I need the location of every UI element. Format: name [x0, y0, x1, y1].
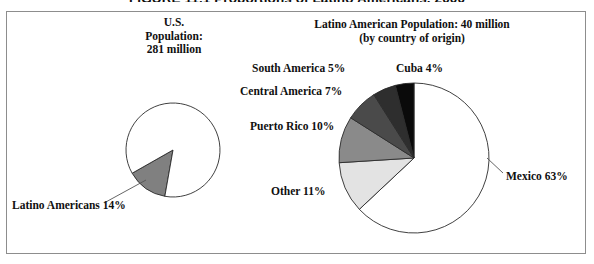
latino-pie-heading-line2: (by country of origin): [272, 32, 552, 46]
slice-label-cuba: Cuba 4%: [396, 62, 443, 75]
us-pie-heading-line1: U.S.: [118, 16, 230, 30]
figure-caption: FIGURE 11.1 Proportions of Latino Americ…: [0, 0, 594, 2]
slice-label-south-america: South America 5%: [252, 62, 345, 75]
slice-label-latino-americans: Latino Americans 14%: [12, 199, 126, 212]
slice-label-other: Other 11%: [271, 185, 325, 198]
us-pie-heading-line2: Population:: [118, 30, 230, 44]
slice-label-central-america: Central America 7%: [240, 85, 342, 98]
latino-pie-heading: Latino American Population: 40 million (…: [272, 18, 552, 45]
slice-label-mexico: Mexico 63%: [506, 170, 568, 183]
us-pie-heading-line3: 281 million: [118, 43, 230, 57]
us-pie-heading: U.S. Population: 281 million: [118, 16, 230, 57]
latino-pie-heading-line1: Latino American Population: 40 million: [272, 18, 552, 32]
slice-label-puerto-rico: Puerto Rico 10%: [250, 120, 334, 133]
